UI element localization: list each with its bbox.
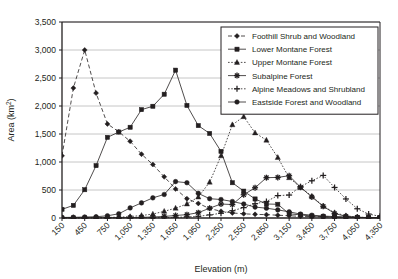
data-point-square	[71, 203, 75, 207]
data-point-circle	[241, 202, 246, 207]
x-axis-title: Elevation (m)	[194, 264, 247, 274]
data-point-circle	[162, 192, 167, 197]
data-point-star	[286, 173, 292, 179]
data-point-circle	[139, 201, 144, 206]
data-point-square	[196, 124, 200, 128]
y-tick-label: 2,500	[35, 73, 57, 83]
data-point-circle	[310, 213, 315, 218]
legend-label: Lower Montane Forest	[252, 45, 333, 54]
data-point-square	[105, 135, 109, 139]
y-tick-label: 0	[51, 213, 56, 223]
data-point-square	[162, 92, 166, 96]
data-point-circle	[196, 191, 201, 196]
y-tick-label: 500	[42, 185, 56, 195]
data-point-circle	[116, 212, 121, 217]
legend-label: Foothill Shrub and Woodland	[252, 32, 355, 41]
data-point-square	[151, 104, 155, 108]
data-point-circle	[94, 214, 99, 219]
data-point-square	[139, 108, 143, 112]
legend-marker-circle	[235, 100, 240, 105]
y-tick-label: 3,000	[35, 45, 57, 55]
y-tick-label: 2,000	[35, 101, 57, 111]
data-point-square	[208, 131, 212, 135]
data-point-circle	[321, 214, 326, 219]
data-point-circle	[332, 214, 337, 219]
data-point-circle	[230, 199, 235, 204]
legend-label: Upper Montane Forest	[252, 58, 333, 67]
data-point-circle	[128, 206, 133, 211]
data-point-circle	[355, 215, 360, 220]
data-point-square	[185, 103, 189, 107]
elevation-area-line-chart: 05001,0001,5002,0002,5003,0003,500150450…	[0, 0, 398, 279]
data-point-circle	[71, 215, 76, 220]
chart-container: 05001,0001,5002,0002,5003,0003,500150450…	[0, 0, 398, 279]
data-point-circle	[264, 206, 269, 211]
y-tick-label: 1,000	[35, 157, 57, 167]
y-tick-label: 3,500	[35, 17, 57, 27]
legend-label: Subalpine Forest	[252, 72, 313, 81]
legend-marker-square	[235, 47, 239, 51]
data-point-square	[276, 202, 280, 206]
legend-label: Alpine Meadows and Shrubland	[252, 85, 365, 94]
data-point-circle	[82, 215, 87, 220]
data-point-square	[94, 164, 98, 168]
legend-marker-star	[234, 73, 240, 79]
data-point-circle	[207, 196, 212, 201]
data-point-circle	[253, 205, 258, 210]
data-point-circle	[287, 210, 292, 215]
data-point-square	[117, 130, 121, 134]
y-tick-label: 1,500	[35, 129, 57, 139]
data-point-circle	[151, 196, 156, 201]
data-point-circle	[298, 212, 303, 217]
data-point-circle	[105, 213, 110, 218]
data-point-square	[253, 197, 257, 201]
legend-label: Eastside Forest and Woodland	[252, 98, 361, 107]
data-point-circle	[219, 197, 224, 202]
data-point-circle	[173, 179, 178, 184]
data-point-circle	[185, 180, 190, 185]
data-point-square	[230, 181, 234, 185]
data-point-circle	[344, 215, 349, 220]
chart-legend: Foothill Shrub and WoodlandLower Montane…	[221, 27, 378, 114]
data-point-square	[173, 68, 177, 72]
data-point-square	[83, 188, 87, 192]
data-point-circle	[275, 208, 280, 213]
data-point-square	[128, 125, 132, 129]
data-point-star	[309, 194, 315, 200]
